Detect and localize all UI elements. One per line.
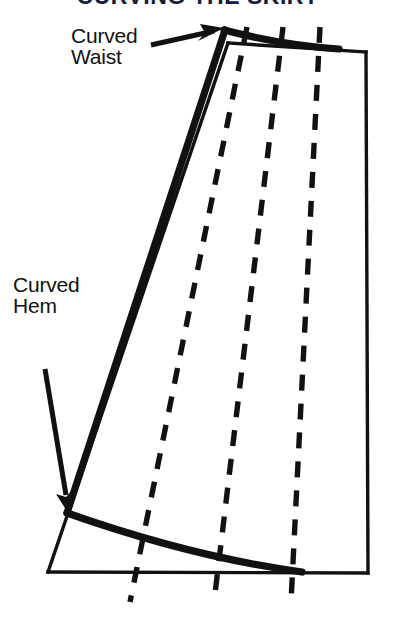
dashed-line-1 <box>130 27 247 602</box>
curved-hem-arrow <box>45 369 74 516</box>
outline-right-edge <box>366 52 368 573</box>
curved-hem-arrow-shaft <box>45 369 66 495</box>
dashed-slash-lines <box>130 27 320 602</box>
outline-quadrilateral <box>48 43 368 573</box>
outline-bottom-edge <box>48 572 368 573</box>
left-side-seam-line <box>67 30 225 513</box>
label-curved-waist: Curved Waist <box>71 25 138 68</box>
label-curved-hem: Curved Hem <box>13 274 80 317</box>
curved-hem-line <box>67 513 302 572</box>
dashed-line-2 <box>214 27 283 602</box>
dashed-line-3 <box>291 27 320 602</box>
curved-waist-arrow <box>151 24 224 45</box>
curved-waist-arrow-shaft <box>151 31 214 45</box>
figure-canvas: CURVING THE SKIRT <box>0 0 395 618</box>
